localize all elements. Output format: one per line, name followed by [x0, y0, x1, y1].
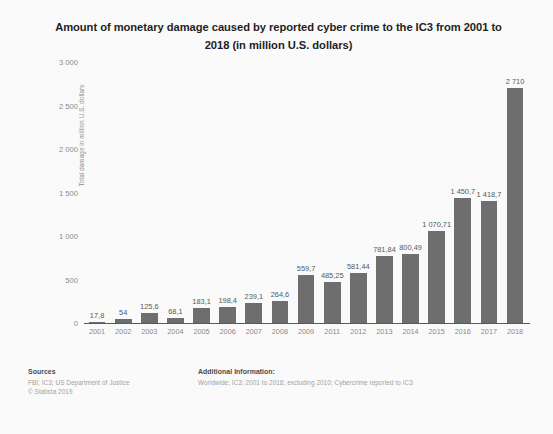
x-axis-tick: 2016	[450, 327, 476, 336]
bar-value-label: 2 710	[506, 77, 525, 86]
page-title: Amount of monetary damage caused by repo…	[46, 18, 511, 54]
x-axis-line	[84, 323, 530, 324]
bar[interactable]	[245, 303, 262, 324]
x-axis-tick: 2007	[241, 327, 267, 336]
bar-slot[interactable]: 1 418,7	[476, 62, 502, 324]
x-axis-tick: 2001	[84, 327, 110, 336]
bar-value-label: 559,7	[297, 264, 316, 273]
chart-area: Total damage in million U.S. dollars 3 0…	[24, 62, 536, 350]
bar-slot[interactable]: 183,1	[189, 62, 215, 324]
bar-slot[interactable]: 1 070,71	[424, 62, 450, 324]
bar-value-label: 17,8	[90, 311, 104, 320]
bar-slot[interactable]: 198,4	[215, 62, 241, 324]
bar-value-label: 781,84	[373, 245, 396, 254]
bar-slot[interactable]: 2 710	[502, 62, 528, 324]
bar[interactable]	[324, 282, 341, 324]
bar-value-label: 239,1	[245, 292, 264, 301]
bar-slot[interactable]: 559,7	[293, 62, 319, 324]
footer: Sources FBI; IC3; US Department of Justi…	[28, 368, 535, 396]
page-title-line-1: Amount of monetary damage caused by repo…	[46, 18, 511, 36]
bar[interactable]	[298, 275, 315, 324]
y-axis-tick: 3 000	[38, 58, 78, 67]
x-axis-tick: 2018	[502, 327, 528, 336]
bar-series: 17,854125,668,1183,1198,4239,1264,6559,7…	[84, 62, 528, 324]
bar-value-label: 581,44	[347, 262, 370, 271]
y-axis-tick: 2 500	[38, 101, 78, 110]
bar-value-label: 125,6	[140, 302, 159, 311]
y-axis-tick: 0	[38, 319, 78, 328]
bar[interactable]	[481, 201, 498, 324]
y-axis-tick: 1 000	[38, 232, 78, 241]
footer-info-heading: Additional Information:	[198, 368, 535, 375]
x-axis-tick: 2005	[189, 327, 215, 336]
bar-slot[interactable]: 17,8	[84, 62, 110, 324]
footer-sources-line-2: © Statista 2019	[28, 387, 198, 396]
x-axis-tick: 2011	[319, 327, 345, 336]
bar-slot[interactable]: 264,6	[267, 62, 293, 324]
x-axis-tick: 2004	[162, 327, 188, 336]
bar[interactable]	[376, 256, 393, 324]
footer-sources: Sources FBI; IC3; US Department of Justi…	[28, 368, 198, 396]
bar[interactable]	[507, 88, 524, 324]
bar-slot[interactable]: 485,25	[319, 62, 345, 324]
x-axis-tick: 2014	[398, 327, 424, 336]
x-axis-tick: 2002	[110, 327, 136, 336]
bar-value-label: 54	[119, 308, 127, 317]
x-axis-tick: 2012	[345, 327, 371, 336]
bar[interactable]	[454, 198, 471, 324]
footer-info-line-1: Worldwide; IC3; 2001 to 2018; excluding …	[198, 378, 535, 387]
bar[interactable]	[428, 231, 445, 324]
bar-slot[interactable]: 1 450,7	[450, 62, 476, 324]
footer-sources-heading: Sources	[28, 368, 198, 375]
x-axis-tick: 2013	[371, 327, 397, 336]
x-axis-tick: 2015	[424, 327, 450, 336]
bar[interactable]	[219, 307, 236, 324]
bar-slot[interactable]: 781,84	[371, 62, 397, 324]
bar-slot[interactable]: 239,1	[241, 62, 267, 324]
chart-page: Amount of monetary damage caused by repo…	[0, 0, 553, 434]
y-axis-tick: 2 000	[38, 145, 78, 154]
x-axis-tick: 2003	[136, 327, 162, 336]
y-axis-tick: 500	[38, 275, 78, 284]
x-axis-tick-labels: 2001200220032004200520062007200820092011…	[84, 327, 528, 336]
bar-value-label: 1 070,71	[422, 220, 451, 229]
x-axis-tick: 2008	[267, 327, 293, 336]
footer-additional-information: Additional Information: Worldwide; IC3; …	[198, 368, 535, 396]
bar[interactable]	[193, 308, 210, 324]
x-axis-tick: 2009	[293, 327, 319, 336]
bar-value-label: 68,1	[168, 307, 182, 316]
x-axis-tick: 2017	[476, 327, 502, 336]
bar-slot[interactable]: 54	[110, 62, 136, 324]
bar-value-label: 198,4	[218, 296, 237, 305]
page-title-line-2: 2018 (in million U.S. dollars)	[46, 36, 511, 54]
bar-value-label: 264,6	[271, 290, 290, 299]
footer-sources-line-1: FBI; IC3; US Department of Justice	[28, 378, 198, 387]
bar-slot[interactable]: 68,1	[162, 62, 188, 324]
bar-value-label: 485,25	[321, 271, 344, 280]
y-axis-tick-labels: 3 0002 5002 0001 5001 0005000	[38, 62, 78, 324]
bar-value-label: 183,1	[192, 297, 211, 306]
bar[interactable]	[350, 273, 367, 324]
bar-slot[interactable]: 125,6	[136, 62, 162, 324]
y-axis-tick: 1 500	[38, 188, 78, 197]
bar-value-label: 1 450,7	[450, 187, 475, 196]
bar-value-label: 800,49	[399, 243, 422, 252]
bar[interactable]	[272, 301, 289, 324]
bar-value-label: 1 418,7	[477, 190, 502, 199]
bar[interactable]	[402, 254, 419, 324]
bar-slot[interactable]: 800,49	[398, 62, 424, 324]
x-axis-tick: 2006	[215, 327, 241, 336]
plot-region: 17,854125,668,1183,1198,4239,1264,6559,7…	[84, 62, 528, 324]
bar-slot[interactable]: 581,44	[345, 62, 371, 324]
